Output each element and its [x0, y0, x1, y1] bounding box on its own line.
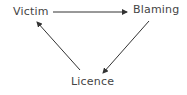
node-licence: Licence — [71, 76, 114, 87]
node-blaming: Blaming — [133, 4, 179, 15]
edge-licence-to-victim — [37, 22, 80, 70]
node-victim: Victim — [13, 6, 49, 17]
edge-blaming-to-licence — [103, 21, 149, 73]
